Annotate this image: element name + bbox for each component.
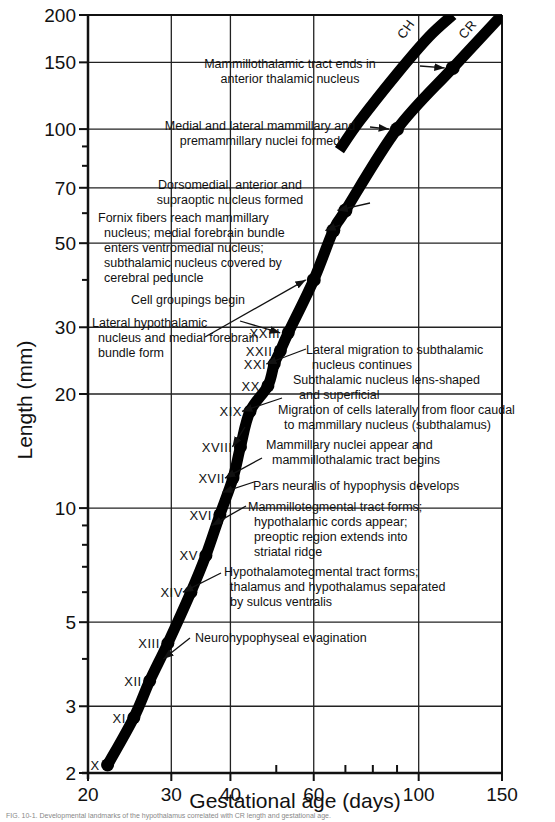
x-tick-label: 150 bbox=[486, 784, 518, 805]
stage-label: XIII bbox=[138, 636, 160, 651]
annotations: Mammillothalamic tract ends inanterior t… bbox=[92, 57, 515, 659]
annotation-text: Mammillary nuclei appear andmammillothal… bbox=[266, 438, 440, 467]
x-tick-label: 20 bbox=[77, 784, 98, 805]
y-tick-label: 150 bbox=[44, 52, 76, 73]
annotation-line: hypothalamic cords appear; bbox=[254, 515, 408, 529]
annotation: Dorsomedial, anterior andsupraoptic nucl… bbox=[157, 178, 370, 210]
x-tick-label: 30 bbox=[161, 784, 182, 805]
series-label-ch: CH bbox=[394, 17, 418, 42]
stage-label: XII bbox=[124, 674, 141, 689]
annotation-text: Fornix fibers reach mammillarynucleus; m… bbox=[98, 211, 285, 285]
annotation-line: supraoptic nucleus formed bbox=[157, 193, 304, 207]
stage-point bbox=[161, 637, 174, 650]
y-tick-label: 70 bbox=[55, 178, 76, 199]
x-axis-label: Gestational age (days) bbox=[189, 789, 400, 812]
annotation-line: Migration of cells laterally from floor … bbox=[278, 403, 515, 417]
event-point bbox=[446, 61, 460, 75]
annotation-line: anterior thalamic nucleus bbox=[221, 72, 360, 86]
y-tick-label: 20 bbox=[55, 384, 76, 405]
annotation-text: Lateral hypothalamicnucleus and medial f… bbox=[92, 316, 259, 360]
annotation-line: premammillary nuclei formed bbox=[180, 134, 341, 148]
annotation-text: Mammillotegmental tract forms;hypothalam… bbox=[248, 500, 422, 559]
y-tick-label: 5 bbox=[65, 612, 76, 633]
annotation-line: subthalamic nucleus covered by bbox=[104, 256, 283, 270]
stage-label: XVI bbox=[189, 508, 211, 523]
stage-label: XVII bbox=[198, 471, 225, 486]
annotation-line: Pars neuralis of hypophysis develops bbox=[253, 479, 459, 493]
y-tick-label: 200 bbox=[44, 5, 76, 26]
annotation-line: Lateral migration to subthalamic bbox=[306, 343, 483, 357]
stage-label: XV bbox=[180, 548, 198, 563]
y-tick-label: 3 bbox=[65, 696, 76, 717]
annotation-line: striatal ridge bbox=[254, 545, 322, 559]
annotation-line: Hypothalamotegmental tract forms; bbox=[224, 565, 419, 579]
annotation-line: Fornix fibers reach mammillary bbox=[98, 211, 270, 225]
annotation: Lateral migration to subthalamicnucleus … bbox=[266, 343, 483, 372]
annotation-text: Lateral migration to subthalamicnucleus … bbox=[306, 343, 483, 372]
stage-label: XIX bbox=[220, 404, 242, 419]
y-tick-label: 30 bbox=[55, 317, 76, 338]
annotation-line: by sulcus ventralis bbox=[230, 595, 332, 609]
annotation: Hypothalamotegmental tract forms;thalamu… bbox=[183, 565, 446, 609]
annotation-text: Migration of cells laterally from floor … bbox=[278, 403, 515, 432]
stage-label: XXII bbox=[246, 344, 273, 359]
annotation-text: Subthalamic nucleus lens-shapedand super… bbox=[293, 373, 480, 402]
annotation-text: Pars neuralis of hypophysis develops bbox=[253, 479, 459, 493]
stage-label: XXI bbox=[244, 357, 266, 372]
stage-point bbox=[101, 758, 114, 771]
annotation-line: bundle form bbox=[98, 346, 164, 360]
stage-point bbox=[274, 344, 287, 357]
figure-caption: FIG. 10-1. Developmental landmarks of th… bbox=[6, 812, 331, 819]
annotation-line: Mammillotegmental tract forms; bbox=[248, 500, 422, 514]
stage-point bbox=[213, 508, 226, 521]
stage-label: XX bbox=[242, 379, 260, 394]
annotation-line: Dorsomedial, anterior and bbox=[158, 178, 302, 192]
annotation-line: enters ventromedial nucleus; bbox=[104, 241, 264, 255]
annotation-text: Mammillothalamic tract ends inanterior t… bbox=[204, 57, 376, 86]
y-tick-label: 2 bbox=[65, 763, 76, 784]
stage-label: XI bbox=[113, 711, 126, 726]
annotation-line: to mammillary nucleus (subthalamus) bbox=[284, 418, 491, 432]
stage-label: XVIII bbox=[202, 440, 233, 455]
annotation: Mammillotegmental tract forms;hypothalam… bbox=[212, 500, 422, 559]
annotation-line: Neurohypophyseal evagination bbox=[195, 631, 367, 645]
annotation-text: Neurohypophyseal evagination bbox=[195, 631, 367, 645]
event-point bbox=[307, 273, 321, 287]
x-tick-label: 100 bbox=[403, 784, 435, 805]
annotation-line: cerebral peduncle bbox=[104, 271, 203, 285]
chart: 235102030507010015020020304060100150 CHC… bbox=[0, 0, 555, 822]
annotation-line: Medial and lateral mammillary and bbox=[165, 119, 355, 133]
annotation-text: Hypothalamotegmental tract forms;thalamu… bbox=[224, 565, 445, 609]
stage-point bbox=[127, 711, 140, 724]
annotation: Pars neuralis of hypophysis develops bbox=[222, 479, 459, 493]
y-tick-label: 100 bbox=[44, 119, 76, 140]
event-point bbox=[390, 122, 404, 136]
annotation-line: Mammillothalamic tract ends in bbox=[204, 57, 376, 71]
annotation-line: nucleus continues bbox=[312, 358, 412, 372]
annotation-line: Cell groupings begin bbox=[131, 293, 245, 307]
stage-label: XIV bbox=[160, 585, 182, 600]
y-axis-label: Length (mm) bbox=[13, 340, 36, 459]
y-tick-label: 50 bbox=[55, 233, 76, 254]
stage-point bbox=[199, 549, 212, 562]
annotation-line: and superficial bbox=[299, 388, 380, 402]
annotation-line: Mammillary nuclei appear and bbox=[266, 438, 433, 452]
annotation: Fornix fibers reach mammillarynucleus; m… bbox=[98, 211, 340, 285]
annotation-line: Lateral hypothalamic bbox=[92, 316, 207, 330]
annotation: Neurohypophyseal evagination bbox=[163, 631, 366, 659]
stage-point bbox=[282, 326, 295, 339]
event-point bbox=[338, 203, 352, 217]
annotation-text: Cell groupings begin bbox=[131, 293, 245, 307]
annotation-text: Medial and lateral mammillary andpremamm… bbox=[165, 119, 355, 148]
annotation-line: preoptic region extends into bbox=[254, 530, 408, 544]
annotation-arrow bbox=[420, 66, 445, 68]
annotation-line: nucleus; medial forebrain bundle bbox=[104, 226, 285, 240]
stage-point bbox=[143, 674, 156, 687]
y-tick-label: 10 bbox=[55, 498, 76, 519]
stage-point bbox=[261, 379, 274, 392]
annotation: Mammillary nuclei appear andmammillothal… bbox=[225, 438, 440, 478]
annotation-line: mammillothalamic tract begins bbox=[272, 453, 440, 467]
stage-label: X bbox=[90, 758, 99, 773]
annotation-line: thalamus and hypothalamus separated bbox=[230, 580, 445, 594]
annotation-text: Dorsomedial, anterior andsupraoptic nucl… bbox=[157, 178, 304, 207]
